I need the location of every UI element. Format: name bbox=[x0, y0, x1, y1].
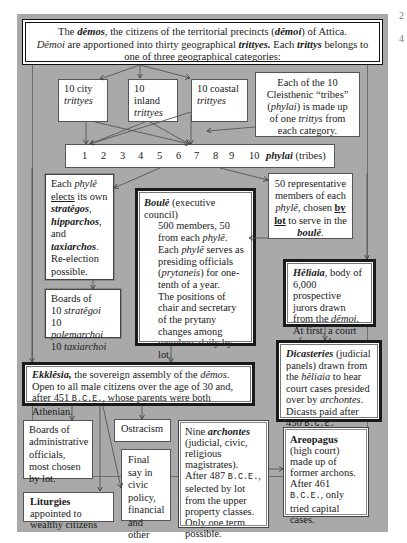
phyle-2: 2 bbox=[101, 150, 106, 161]
phyle-9: 9 bbox=[229, 150, 234, 161]
phyle-7: 7 bbox=[194, 150, 199, 161]
boule-box: Boulê (executive council) 500 members, 5… bbox=[135, 188, 256, 346]
phyle-elects-box: Each phylê elects its own stratêgos, hip… bbox=[45, 174, 114, 280]
areopagus-box: Areopagus (high court) made up of former… bbox=[283, 427, 369, 517]
phylai-row: 1 2 3 4 5 6 7 8 9 10 phylai (tribes) bbox=[65, 144, 335, 168]
term-demos: dêmos bbox=[77, 26, 105, 37]
boards-administrative-box: Boards of administrative officials, most… bbox=[23, 420, 93, 479]
representatives-box: 50 representative members of each phylê,… bbox=[268, 173, 353, 239]
ekklesia-box: Ekklêsia, the sovereign assembly of the … bbox=[22, 362, 255, 406]
heliaia-box: Hêliaia, body of 6,000 prospective juror… bbox=[283, 259, 376, 327]
cleisthenic-tribes-note: Each of the 10 Cleisthenic “tribes” (phy… bbox=[255, 72, 360, 137]
phyle-8: 8 bbox=[213, 150, 218, 161]
ostracism-box: Ostracism bbox=[114, 419, 171, 442]
trittyes-coastal-box: 10 coastal trittyes bbox=[191, 79, 248, 122]
demos-title-box: The dêmos, the citizens of the territori… bbox=[22, 19, 383, 65]
phyle-1: 1 bbox=[82, 150, 87, 161]
phyle-6: 6 bbox=[176, 150, 181, 161]
boards-strategoi-box: Boards of 10 stratêgoi 10 polemarchoi 10… bbox=[45, 289, 121, 338]
final-say-box: Final say in civic policy, financial and… bbox=[121, 449, 171, 521]
phyle-5: 5 bbox=[157, 150, 162, 161]
trittyes-inland-box: 10 inland trittyes bbox=[128, 79, 178, 122]
phyle-3: 3 bbox=[120, 150, 125, 161]
margin-mark-bottom: 4 bbox=[399, 33, 404, 44]
margin-mark-top: 2 bbox=[399, 10, 404, 21]
phylai-label: phylai (tribes) bbox=[266, 150, 326, 161]
phyle-10: 10 bbox=[249, 150, 260, 161]
dicasteries-box: Dicasteries (judicial panels) drawn from… bbox=[276, 340, 382, 422]
archons-box: Nine archontes (judicial, civic, religio… bbox=[178, 420, 269, 528]
liturgies-box: Liturgies appointed to wealthy citizens bbox=[23, 492, 114, 522]
phyle-4: 4 bbox=[138, 150, 143, 161]
trittyes-city-box: 10 city trittyes bbox=[58, 79, 108, 122]
